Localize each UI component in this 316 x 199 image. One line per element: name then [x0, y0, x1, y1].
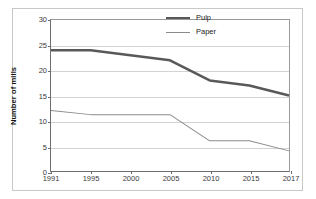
- series-line-pulp: [51, 50, 289, 95]
- legend-label-paper: Paper: [196, 28, 216, 36]
- y-tick-label: 25: [39, 42, 47, 50]
- legend-item-paper: Paper: [166, 25, 236, 39]
- x-tick-mark: [131, 171, 132, 174]
- x-tick-label: 2017: [283, 175, 300, 183]
- legend-swatch-pulp-icon: [166, 17, 190, 19]
- x-tick-mark: [91, 171, 92, 174]
- x-tick-label: 1995: [83, 175, 100, 183]
- line-chart: Number of mills 051015202530 19911995200…: [0, 0, 316, 199]
- legend-swatch-paper-icon: [166, 32, 190, 33]
- x-tick-label: 1991: [43, 175, 60, 183]
- legend-label-pulp: Pulp: [196, 14, 211, 22]
- x-tick-mark: [251, 171, 252, 174]
- x-tick-mark: [51, 171, 52, 174]
- legend: Pulp Paper: [166, 11, 236, 39]
- y-tick-label: 30: [39, 16, 47, 24]
- x-tick-label: 2010: [203, 175, 220, 183]
- x-tick-mark: [171, 171, 172, 174]
- series-line-paper: [51, 111, 289, 151]
- x-tick-label: 2000: [123, 175, 140, 183]
- plot-area: 051015202530 199119952000200520102015201…: [50, 19, 290, 172]
- y-tick-label: 5: [43, 144, 47, 152]
- x-tick-label: 2015: [243, 175, 260, 183]
- y-tick-label: 10: [39, 118, 47, 126]
- y-tick-label: 20: [39, 67, 47, 75]
- legend-item-pulp: Pulp: [166, 11, 236, 25]
- y-axis-title: Number of mills: [9, 67, 18, 125]
- y-tick-label: 15: [39, 93, 47, 101]
- series-group: [51, 20, 289, 171]
- x-tick-mark: [211, 171, 212, 174]
- chart-screenshot: Number of mills 051015202530 19911995200…: [0, 0, 316, 199]
- x-tick-label: 2005: [163, 175, 180, 183]
- x-tick-mark: [291, 171, 292, 174]
